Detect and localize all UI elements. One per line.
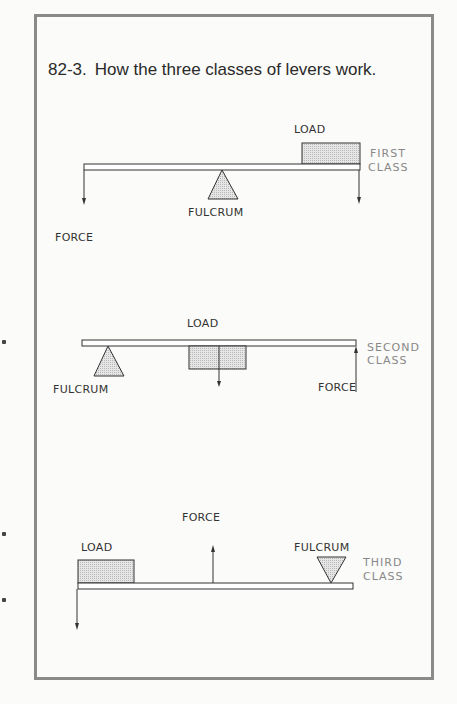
- load-block: [78, 560, 134, 583]
- load-label: LOAD: [81, 541, 112, 554]
- class-label-line2: CLASS: [368, 161, 409, 174]
- fulcrum-label: FULCRUM: [53, 383, 108, 396]
- class-label-line1: SECOND: [367, 341, 420, 354]
- force-arrow-icon: [211, 545, 215, 552]
- class-label-line2: CLASS: [363, 570, 404, 583]
- class-label-line1: FIRST: [370, 147, 406, 160]
- load-label: LOAD: [187, 317, 218, 330]
- force-arrow-icon: [354, 346, 358, 353]
- force-label: FORCE: [55, 231, 93, 244]
- force-label: FORCE: [318, 381, 356, 394]
- load-arrow-icon: [217, 381, 221, 387]
- load-label: LOAD: [294, 123, 325, 136]
- fulcrum-label: FULCRUM: [294, 541, 349, 554]
- lever-bar: [78, 583, 353, 589]
- fulcrum-triangle: [208, 170, 238, 199]
- lever-bar: [82, 340, 356, 346]
- first-class-lever: LOAD FULCRUM FORCE FIRST CLASS: [55, 123, 409, 244]
- load-block: [302, 143, 360, 164]
- fulcrum-label: FULCRUM: [188, 206, 243, 219]
- force-label: FORCE: [182, 511, 220, 524]
- levers-diagram: LOAD FULCRUM FORCE FIRST CLASS LOAD FULC…: [0, 0, 457, 704]
- force-arrow-icon: [82, 198, 86, 205]
- class-label-line2: CLASS: [367, 354, 408, 367]
- third-class-lever: FORCE LOAD FULCRUM THIRD CLASS: [75, 511, 404, 630]
- second-class-lever: LOAD FULCRUM FORCE SECOND CLASS: [53, 317, 420, 396]
- fulcrum-triangle: [317, 557, 346, 583]
- load-block: [189, 346, 246, 369]
- load-arrow-icon: [357, 197, 361, 204]
- class-label-line1: THIRD: [362, 556, 402, 569]
- fulcrum-triangle: [94, 346, 124, 376]
- load-arrow-icon: [75, 623, 79, 630]
